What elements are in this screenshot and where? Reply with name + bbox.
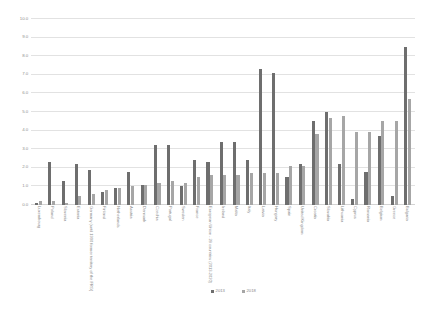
x-axis-labels: LuxembourgPolandSloveniaEstoniaGermany (… [31,206,415,314]
bar-chart: 0.01.02.03.04.05.06.07.08.09.010.0 Luxem… [0,0,423,322]
x-label-cell: Greece [388,206,401,314]
bar [88,170,91,205]
bar-group [72,19,85,205]
bar-group [309,19,322,205]
x-tick-label: Finland [102,206,106,219]
bar [114,188,117,205]
x-tick-label: France [195,206,199,218]
x-tick-label: Hungary [274,206,278,221]
x-tick-label: Germany (until 1990 former territory of … [89,206,93,291]
plot-area [31,19,415,205]
x-label-cell: Sweden [177,206,190,314]
legend-label: 2018 [247,289,256,293]
x-label-cell: Luxembourg [32,206,45,314]
x-label-cell: Czechia [151,206,164,314]
bar-group [256,19,269,205]
y-tick-label: 8.0 [2,54,28,58]
x-label-cell: Croatia [309,206,322,314]
x-tick-label: Luxembourg [37,206,41,228]
bar [118,188,121,205]
bar [131,186,134,205]
bar [193,160,196,205]
x-label-cell: Cyprus [348,206,361,314]
bar-group [230,19,243,205]
x-label-cell: Slovakia [322,206,335,314]
bar-group [137,19,150,205]
y-tick-label: 6.0 [2,91,28,95]
bar [381,121,384,205]
bar [180,186,183,205]
y-tick-label: 10.0 [2,17,28,21]
bar [315,134,318,205]
bar-group [203,19,216,205]
bar [78,196,81,205]
bar [395,121,398,205]
bar [250,173,253,205]
bar [220,142,223,205]
x-label-cell: European Union - 28 countries (2013-2020… [203,206,216,314]
bar [355,132,358,205]
bar [246,160,249,205]
legend-item[interactable]: 2018 [242,289,256,293]
y-tick-label: 7.0 [2,72,28,76]
bar-group [348,19,361,205]
bar [302,166,305,205]
x-tick-label: European Union - 28 countries (2013-2020… [208,206,212,283]
y-tick-label: 3.0 [2,147,28,151]
x-label-cell: Latvia [256,206,269,314]
chart-legend: 20132018 [211,289,256,293]
bar-group [32,19,45,205]
x-tick-label: Lithuania [339,206,343,222]
bar [342,116,345,205]
x-label-cell: Lithuania [335,206,348,314]
y-tick-label: 9.0 [2,35,28,39]
bar-group [282,19,295,205]
bar [144,185,147,205]
x-label-cell: Hungary [269,206,282,314]
x-label-cell: Ireland [216,206,229,314]
x-tick-label: Belgium [379,206,383,220]
bar [154,145,157,205]
x-tick-label: United Kingdom [300,206,304,234]
bar [276,173,279,205]
bar [62,181,65,205]
x-tick-label: Estonia [76,206,80,219]
bar-group [151,19,164,205]
legend-item[interactable]: 2013 [211,289,225,293]
x-tick-label: Portugal [168,206,172,221]
x-label-cell: Austria [124,206,137,314]
x-tick-label: Ireland [221,206,225,218]
bar-group [58,19,71,205]
bar [404,47,407,205]
bar [48,162,51,205]
bar [263,173,266,205]
bar [210,175,213,205]
bar [197,177,200,205]
x-tick-label: Poland [50,206,54,218]
y-tick-label: 5.0 [2,110,28,114]
x-tick-label: Denmark [142,206,146,222]
bar-group [388,19,401,205]
bar-group [45,19,58,205]
bar [35,203,38,205]
bar-groups [31,19,415,205]
bar [65,203,68,205]
bar [289,166,292,205]
x-tick-label: Romania [366,206,370,222]
x-label-cell: Portugal [164,206,177,314]
bar [75,164,78,205]
bar [167,145,170,205]
bar [171,181,174,205]
bar-group [177,19,190,205]
bar [368,132,371,205]
bar-group [190,19,203,205]
x-label-cell: United Kingdom [295,206,308,314]
x-label-cell: Netherlands [111,206,124,314]
bar-group [243,19,256,205]
x-tick-label: Slovenia [63,206,67,221]
bar [39,201,42,205]
bar-group [164,19,177,205]
x-tick-label: Malta [234,206,238,216]
bar [127,172,130,205]
x-tick-label: Croatia [313,206,317,219]
